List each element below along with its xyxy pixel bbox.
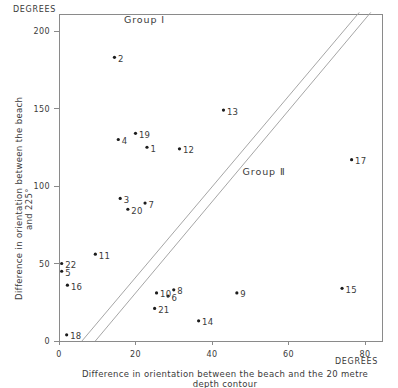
x-axis-unit-label: DEGREES (335, 357, 378, 366)
plot-canvas: 020406080050100150200 213194112173720112… (0, 0, 398, 388)
data-point-label: 12 (183, 145, 194, 155)
data-point (117, 138, 120, 141)
x-tick-label: 40 (207, 350, 218, 359)
data-point-label: 10 (160, 289, 171, 299)
data-point (235, 291, 238, 294)
data-point-label: 15 (346, 285, 357, 295)
data-point-label: 4 (122, 136, 128, 146)
data-point (340, 287, 343, 290)
data-point-label: 21 (158, 305, 169, 315)
data-point-label: 16 (71, 282, 82, 292)
group-annotations: Group IGroup Ⅱ (124, 14, 285, 177)
data-point-label: 9 (240, 289, 246, 299)
data-point (94, 253, 97, 256)
data-point (143, 201, 146, 204)
data-point-label: 6 (172, 293, 178, 303)
group-annotation: Group Ⅱ (243, 166, 286, 177)
data-point-label: 13 (227, 107, 238, 117)
data-point-label: 7 (149, 200, 155, 210)
y-axis-unit-label: DEGREES (13, 5, 56, 14)
axis-unit-labels: DEGREES DEGREES (13, 5, 378, 366)
data-points (60, 56, 353, 337)
data-point (113, 56, 116, 59)
data-point (350, 158, 353, 161)
data-point (155, 291, 158, 294)
y-axis-title-line2: and 225° (24, 188, 34, 230)
y-tick-label: 200 (34, 27, 50, 36)
band-edge-upper (95, 12, 370, 341)
y-tick-label: 150 (34, 105, 50, 114)
data-point-label: 19 (139, 130, 150, 140)
data-point-label: 8 (177, 286, 183, 296)
data-point (145, 146, 148, 149)
x-tick-label: 60 (283, 350, 294, 359)
data-point-label: 3 (124, 195, 130, 205)
data-point-label: 11 (99, 251, 110, 261)
data-point (172, 288, 175, 291)
data-point (153, 307, 156, 310)
data-point-label: 1 (150, 144, 156, 154)
x-axis-title-line1: Difference in orientation between the be… (82, 369, 368, 379)
data-point-label: 14 (202, 317, 213, 327)
data-point (65, 333, 68, 336)
data-point-label: 2 (118, 54, 124, 64)
data-point-label: 17 (355, 156, 366, 166)
data-point (134, 132, 137, 135)
data-point (178, 147, 181, 150)
x-tick-label: 0 (56, 350, 62, 359)
y-tick-label: 0 (45, 337, 51, 346)
y-axis-title-line1: Difference in orientation between the be… (14, 97, 24, 300)
data-point (66, 284, 69, 287)
scatter-plot-figure: 020406080050100150200 213194112173720112… (0, 0, 398, 388)
axis-titles: Difference in orientation between the be… (14, 97, 368, 388)
data-point-label: 5 (65, 268, 71, 278)
data-point-label: 20 (131, 206, 142, 216)
separating-band (82, 12, 371, 341)
x-axis-title-line2: depth contour (193, 379, 258, 388)
axis-ticks (54, 31, 365, 345)
y-tick-label: 50 (39, 260, 50, 269)
data-point (60, 262, 63, 265)
group-annotation: Group I (124, 14, 165, 25)
x-tick-label: 20 (130, 350, 141, 359)
data-point (119, 197, 122, 200)
data-point (197, 319, 200, 322)
axis-tick-labels: 020406080050100150200 (34, 27, 371, 359)
y-tick-label: 100 (34, 182, 50, 191)
data-point-label: 18 (70, 331, 81, 341)
data-point (60, 270, 63, 273)
data-point (126, 208, 129, 211)
data-point (222, 108, 225, 111)
